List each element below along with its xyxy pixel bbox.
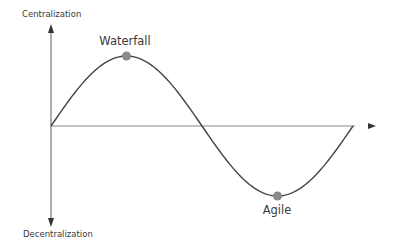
- centralization-diagram: Centralization Decentralization Waterfal…: [0, 0, 396, 250]
- agile-label: Agile: [263, 203, 292, 217]
- waterfall-point: [122, 52, 131, 61]
- agile-point: [273, 192, 282, 201]
- horizontal-axis-right-arrow-icon: [368, 123, 376, 129]
- vertical-axis-up-arrow-icon: [48, 24, 54, 33]
- vertical-axis-down-arrow-icon: [48, 218, 54, 227]
- centralization-label: Centralization: [22, 9, 81, 19]
- decentralization-label: Decentralization: [23, 229, 93, 239]
- waterfall-label: Waterfall: [99, 34, 150, 48]
